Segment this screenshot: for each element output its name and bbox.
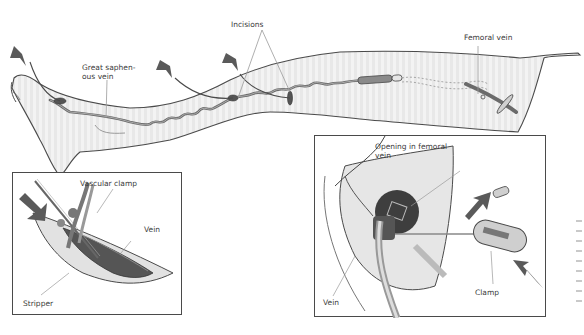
label-opening-line1: Opening in femoral: [375, 142, 447, 151]
arrow-icon: [465, 192, 491, 220]
label-great-saphenous-vein-line1: Great saphen-: [82, 63, 135, 72]
label-vein: Vein: [144, 225, 160, 234]
label-stripper: Stripper: [23, 299, 53, 308]
label-clamp: Clamp: [475, 288, 499, 297]
arrow-icon: [513, 260, 543, 288]
femoral-opening-illustration: [315, 136, 547, 318]
inset-vascular-clamp: Vascular clamp Vein Stripper: [12, 172, 182, 315]
cropped-margin-text: [576, 214, 582, 306]
arrow-icon: [222, 53, 238, 71]
label-vein: Vein: [323, 298, 339, 307]
vein-stripping-figure: Vascular clamp Vein Stripper Openin: [0, 0, 584, 335]
label-opening-line2: vein: [375, 151, 391, 160]
arrow-icon: [19, 193, 47, 221]
arrow-icon: [156, 60, 172, 78]
label-great-saphenous-vein-line2: ous vein: [82, 72, 114, 81]
label-femoral-vein: Femoral vein: [464, 33, 512, 42]
label-vascular-clamp: Vascular clamp: [80, 179, 137, 188]
arrow-icon: [10, 46, 26, 66]
clamp-illustration: [13, 173, 183, 316]
label-incisions: Incisions: [231, 20, 263, 29]
inset-femoral-opening: Opening in femoral vein Vein Clamp: [314, 135, 546, 317]
